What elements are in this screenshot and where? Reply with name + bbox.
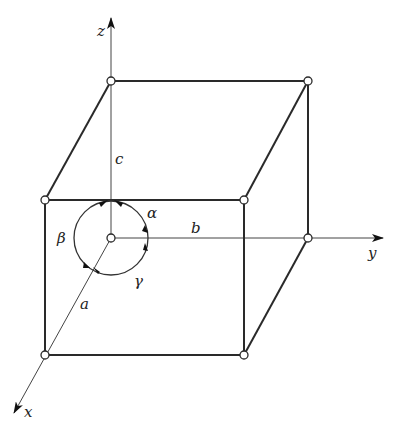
angle-beta-label: β <box>56 229 66 247</box>
edge-a-label: a <box>80 295 89 313</box>
vertex-top-back-left <box>107 77 115 85</box>
z-axis-label: z <box>96 22 105 40</box>
angle-gamma-label: γ <box>134 272 143 290</box>
vertex-back-right <box>304 234 312 242</box>
edge-top-left-slant <box>45 81 111 200</box>
vertices <box>41 77 312 359</box>
edge-top-right-slant <box>244 81 308 200</box>
x-axis <box>14 238 111 413</box>
vertex-front-bottom-left <box>41 351 49 359</box>
y-axis-label: y <box>367 244 377 262</box>
edge-b-label: b <box>191 219 201 237</box>
unit-cell-diagram: z y x c b a α β γ <box>0 0 395 421</box>
x-axis-label: x <box>24 403 33 421</box>
vertex-front-top-left <box>41 196 49 204</box>
edge-c-label: c <box>115 150 124 168</box>
vertex-front-top-right <box>240 196 248 204</box>
edge-bottom-right-slant <box>244 238 308 355</box>
vertex-origin <box>107 234 115 242</box>
angle-alpha-label: α <box>147 204 157 222</box>
vertex-top-back-right <box>304 77 312 85</box>
vertex-front-bottom-right <box>240 351 248 359</box>
